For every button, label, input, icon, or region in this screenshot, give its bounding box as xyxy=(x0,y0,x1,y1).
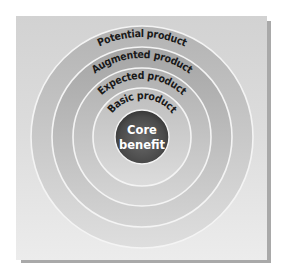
core-benefit-circle xyxy=(115,110,169,164)
core-label-line1: Core xyxy=(127,123,157,137)
product-levels-diagram: Potential product Augmented product Expe… xyxy=(0,0,286,276)
core-label-line2: benefit xyxy=(119,138,166,152)
